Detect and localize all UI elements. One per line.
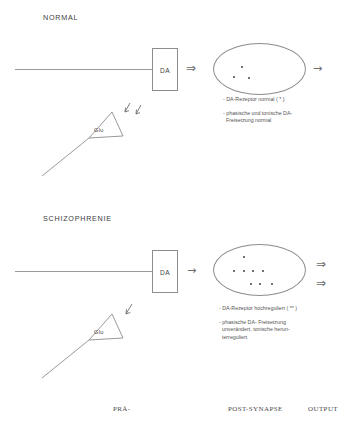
glu-release-arrows-normal <box>125 103 141 114</box>
da-receptor <box>243 256 245 258</box>
panel-heading-schizophrenie: SCHIZOPHRENIE <box>43 214 112 223</box>
glutamate-neuron-schizophrenie: Glu <box>40 300 180 380</box>
panel-normal: NORMAL DA ⇒ → Glu - DA-Rezeptor normal (… <box>0 0 354 213</box>
presynaptic-axon-normal <box>15 69 152 70</box>
da-receptor <box>252 270 254 272</box>
da-receptor <box>271 283 273 285</box>
glu-vesicle-label-schizophrenie: Glu <box>94 329 104 335</box>
da-receptor <box>233 270 235 272</box>
da-receptor <box>243 270 245 272</box>
note-release-status-schizophrenie-line1: - phasische DA- Freisetzung <box>219 319 297 327</box>
note-release-status-schizophrenie-line2: unverändert, tonische herun- <box>219 326 297 334</box>
da-receptor <box>250 283 252 285</box>
postsynaptic-cell-normal <box>213 43 306 95</box>
note-release-status-normal-line2: Freisetzung normal <box>223 117 292 125</box>
note-release-status-schizophrenie-line3: terreguliert <box>219 334 297 342</box>
da-receptor <box>233 76 235 78</box>
notes-schizophrenie: - DA-Rezeptor hochreguliert ( ** ) - pha… <box>219 305 297 347</box>
da-terminal-box-schizophrenie: DA <box>152 250 178 293</box>
da-receptor <box>241 66 243 68</box>
da-terminal-label-normal: DA <box>153 66 177 73</box>
note-receptor-status-normal: - DA-Rezeptor normal ( * ) <box>223 96 292 104</box>
glu-release-arrows-schizophrenie <box>126 304 132 314</box>
glu-vesicle-label-normal: Glu <box>94 127 104 133</box>
notes-normal: - DA-Rezeptor normal ( * ) - phasische u… <box>223 96 292 131</box>
footer-label-postsynapse: POST-SYNAPSE <box>228 405 283 413</box>
postsynaptic-cell-schizophrenie <box>213 244 306 296</box>
panel-heading-normal: NORMAL <box>43 13 78 22</box>
footer-label-presynapse: PRÄ- <box>113 405 131 413</box>
presynaptic-axon-schizophrenie <box>15 271 152 272</box>
da-receptor <box>262 270 264 272</box>
da-terminal-label-schizophrenie: DA <box>153 268 177 275</box>
output-arrow-normal: → <box>313 63 322 74</box>
da-receptor <box>248 77 250 79</box>
da-release-arrow-schizophrenie: → <box>187 265 196 276</box>
note-receptor-status-schizophrenie: - DA-Rezeptor hochreguliert ( ** ) <box>219 305 297 313</box>
da-receptor <box>259 283 261 285</box>
output-arrow-schizophrenie-2: ⇒ <box>316 277 326 289</box>
glutamate-neuron-normal: Glu <box>40 98 180 178</box>
footer-label-output: OUTPUT <box>308 405 338 413</box>
note-release-status-normal-line1: - phasische und tonische DA- <box>223 110 292 118</box>
da-release-arrow-normal: ⇒ <box>186 62 196 74</box>
panel-schizophrenie: SCHIZOPHRENIE DA → ⇒ ⇒ Glu - DA-Rezeptor… <box>0 213 354 426</box>
output-arrow-schizophrenie-1: ⇒ <box>316 258 326 270</box>
da-terminal-box-normal: DA <box>152 48 178 91</box>
